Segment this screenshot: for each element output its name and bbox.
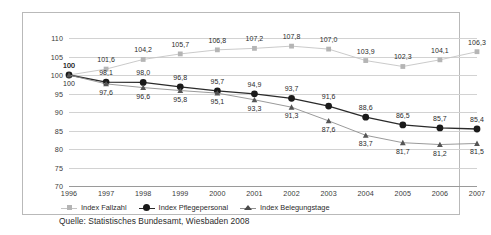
data-point-marker	[178, 52, 183, 57]
data-label: 81,7	[396, 148, 410, 155]
x-tick-label-2005: 2005	[383, 189, 423, 198]
y-tick-label-100: 100	[33, 71, 63, 80]
plot-area: 707580859095100105110 100101,6104,2105,7…	[69, 38, 477, 186]
data-label: 100	[63, 80, 75, 87]
data-label: 95,1	[210, 98, 224, 105]
data-label: 97,6	[99, 89, 113, 96]
data-point-marker	[362, 114, 369, 121]
x-tick-label-1996: 1996	[49, 189, 89, 198]
data-label: 83,7	[359, 140, 373, 147]
y-tick-label-75: 75	[33, 163, 63, 172]
x-axis-tick-labels: 1996199719981999200020012002200320042005…	[69, 189, 477, 201]
data-label: 102,3	[394, 53, 412, 60]
series-index-pflegepersonal	[66, 72, 481, 133]
data-label: 85,4	[470, 116, 484, 123]
data-label: 96,8	[173, 74, 187, 81]
chart-legend: Index FallzahlIndex PflegepersonalIndex …	[61, 203, 330, 212]
data-label: 81,2	[433, 150, 447, 157]
data-label: 98,0	[136, 69, 150, 76]
y-tick-label-85: 85	[33, 126, 63, 135]
data-point-marker	[252, 46, 257, 51]
data-label: 100	[63, 62, 75, 69]
data-point-marker	[363, 58, 368, 63]
data-label: 104,2	[134, 46, 152, 53]
data-label: 106,8	[208, 37, 226, 44]
data-point-marker	[438, 57, 443, 62]
data-label: 103,9	[357, 48, 375, 55]
y-tick-label-105: 105	[33, 52, 63, 61]
data-label: 91,6	[322, 93, 336, 100]
data-point-marker	[325, 103, 332, 110]
series-index-fallzahl	[67, 44, 480, 78]
data-label: 94,9	[248, 81, 262, 88]
data-point-marker	[289, 44, 294, 49]
circle-marker-icon	[139, 204, 155, 212]
legend-swatch	[143, 204, 150, 211]
data-label: 104,1	[431, 47, 449, 54]
data-label: 96,6	[136, 93, 150, 100]
data-point-marker	[475, 49, 480, 54]
x-tick-label-1997: 1997	[86, 189, 126, 198]
series-line	[69, 75, 477, 129]
data-point-marker	[474, 126, 481, 133]
data-label: 106,3	[468, 39, 486, 46]
x-tick-label-2007: 2007	[457, 189, 491, 198]
data-label: 91,3	[285, 112, 299, 119]
series-lines	[69, 38, 477, 186]
data-label: 88,6	[359, 104, 373, 111]
data-point-marker	[215, 47, 220, 52]
chart-frame: 707580859095100105110 100101,6104,2105,7…	[22, 12, 460, 215]
x-tick-label-2000: 2000	[197, 189, 237, 198]
x-tick-label-2001: 2001	[234, 189, 274, 198]
data-point-marker	[326, 47, 331, 52]
data-point-marker	[251, 90, 258, 97]
x-tick-label-1999: 1999	[160, 189, 200, 198]
data-point-marker	[400, 64, 405, 69]
data-label: 107,8	[283, 33, 301, 40]
y-tick-label-80: 80	[33, 145, 63, 154]
y-tick-label-90: 90	[33, 108, 63, 117]
square-marker-icon	[61, 204, 77, 212]
source-note: Quelle: Statistisches Bundesamt, Wiesbad…	[59, 216, 249, 226]
y-tick-label-95: 95	[33, 89, 63, 98]
data-point-marker	[399, 122, 406, 129]
data-label: 93,7	[285, 85, 299, 92]
data-point-marker	[288, 95, 295, 102]
series-line	[69, 46, 477, 75]
y-tick-label-110: 110	[33, 34, 63, 43]
data-label: 87,6	[322, 126, 336, 133]
data-label: 101,6	[97, 56, 115, 63]
legend-item-2[interactable]: Index Pflegepersonal	[139, 203, 228, 212]
data-label: 107,0	[320, 36, 338, 43]
data-label: 95,7	[210, 78, 224, 85]
data-point-marker	[437, 125, 444, 132]
gridline-70	[69, 186, 477, 187]
x-tick-label-2004: 2004	[346, 189, 386, 198]
data-label: 93,3	[248, 105, 262, 112]
triangle-marker-icon	[240, 204, 256, 212]
data-label: 98,1	[99, 69, 113, 76]
data-label: 105,7	[171, 41, 189, 48]
data-point-marker	[326, 118, 332, 123]
legend-item-3[interactable]: Index Belegungstage	[240, 203, 329, 212]
x-tick-label-1998: 1998	[123, 189, 163, 198]
series-index-belegungstage	[66, 72, 480, 147]
legend-label: Index Fallzahl	[81, 203, 127, 212]
x-tick-label-2006: 2006	[420, 189, 460, 198]
data-label: 107,2	[246, 35, 264, 42]
legend-item-1[interactable]: Index Fallzahl	[61, 203, 127, 212]
data-label: 85,7	[433, 115, 447, 122]
legend-label: Index Pflegepersonal	[159, 203, 228, 212]
series-line	[69, 75, 477, 145]
data-label: 95,8	[173, 96, 187, 103]
legend-swatch	[67, 205, 72, 210]
x-tick-label-2002: 2002	[272, 189, 312, 198]
data-label: 86,5	[396, 112, 410, 119]
x-tick-label-2003: 2003	[309, 189, 349, 198]
legend-swatch	[244, 205, 252, 210]
data-point-marker	[363, 132, 369, 137]
legend-label: Index Belegungstage	[260, 203, 329, 212]
data-point-marker	[141, 57, 146, 62]
data-label: 81,5	[470, 148, 484, 155]
